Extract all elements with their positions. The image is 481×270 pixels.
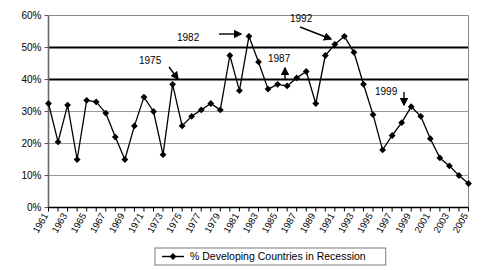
x-axis-tick-labels: 1961196319651967196919711973197519771979…	[30, 211, 470, 235]
chart-legend: % Developing Countries in Recession	[155, 248, 386, 265]
annotation-label-1999: 1999	[375, 86, 398, 97]
y-tick-label-20: 20%	[21, 138, 41, 149]
legend-entry-label: % Developing Countries in Recession	[190, 250, 366, 262]
annotation-label-1992: 1992	[290, 13, 313, 24]
annotation-label-1975: 1975	[139, 55, 162, 66]
annotation-label-1987: 1987	[268, 53, 291, 64]
annotation-label-1982: 1982	[177, 32, 200, 43]
chart-container: 0%10%20%30%40%50%60% 1961196319651967196…	[0, 0, 481, 270]
y-tick-label-50: 50%	[21, 42, 41, 53]
y-tick-label-10: 10%	[21, 170, 41, 181]
recession-line-chart: 0%10%20%30%40%50%60% 1961196319651967196…	[0, 0, 481, 270]
y-tick-label-40: 40%	[21, 74, 41, 85]
y-tick-label-30: 30%	[21, 106, 41, 117]
y-tick-label-60: 60%	[21, 10, 41, 21]
